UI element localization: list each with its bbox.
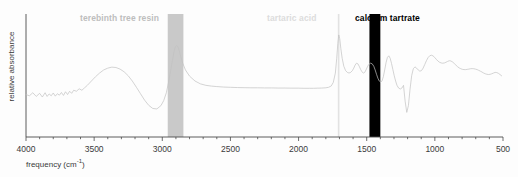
x-tick-label-3000: 3000 — [153, 144, 172, 154]
ir-spectrum-figure: 4000350030002500200015001000500 terebint… — [0, 0, 518, 177]
annotation-band-calcium-tartrate — [369, 14, 380, 137]
annotation-label-calcium-tartrate: calcium tartrate — [355, 14, 420, 23]
annotation-label-terebinth-tree-resin: terebinth tree resin — [80, 14, 159, 23]
x-tick-labels: 4000350030002500200015001000500 — [17, 144, 511, 154]
x-tick-label-3500: 3500 — [85, 144, 104, 154]
x-tick-label-500: 500 — [496, 144, 510, 154]
annotation-band-tartaric-acid — [338, 14, 340, 137]
axes — [26, 14, 503, 141]
x-axis-label: frequency (cm-1) — [26, 160, 85, 169]
x-tick-label-1500: 1500 — [357, 144, 376, 154]
x-tick-label-1000: 1000 — [425, 144, 444, 154]
spectrum-canvas: 4000350030002500200015001000500 — [0, 0, 518, 177]
annotation-label-tartaric-acid: tartaric acid — [267, 14, 317, 23]
x-tick-label-2500: 2500 — [221, 144, 240, 154]
x-tick-label-2000: 2000 — [289, 144, 308, 154]
annotation-bands — [168, 14, 381, 137]
spectrum-curve — [26, 35, 502, 112]
x-tick-label-4000: 4000 — [17, 144, 36, 154]
y-axis-label: relative absorbance — [7, 12, 16, 122]
x-axis-label-text: frequency (cm — [26, 160, 77, 169]
x-axis-label-close: ) — [82, 160, 85, 169]
